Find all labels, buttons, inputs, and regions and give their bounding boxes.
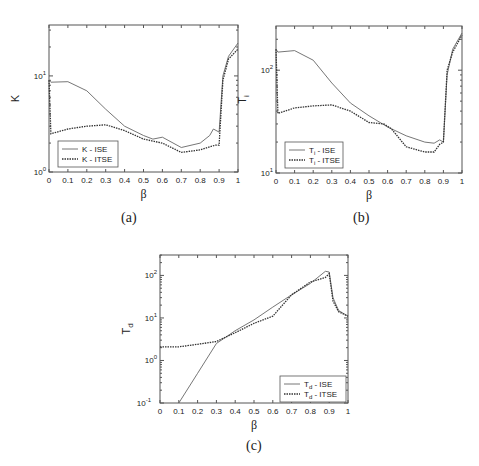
x-tick-label: 0.7 — [401, 177, 413, 186]
legend-label: Ti - ITSE — [309, 156, 340, 166]
x-tick-label: 0.3 — [100, 176, 112, 185]
x-tick-label: 0.8 — [419, 177, 431, 186]
legend: K - ISEK - ITSE — [58, 141, 118, 167]
x-tick-label: 0.8 — [195, 176, 207, 185]
x-tick-label: 1 — [346, 407, 351, 416]
y-tick-label: 101 — [261, 167, 274, 178]
x-tick-label: 0.1 — [173, 407, 185, 416]
x-tick-label: 1 — [236, 176, 241, 185]
x-tick-label: 1 — [460, 177, 465, 186]
x-tick-label: 0.3 — [326, 177, 338, 186]
x-tick-label: 0.9 — [438, 177, 450, 186]
x-tick-label: 0.1 — [62, 176, 74, 185]
y-tick-label: 100 — [145, 354, 158, 365]
x-tick-label: 0.6 — [382, 177, 394, 186]
x-tick-label: 0.2 — [192, 407, 204, 416]
caption-b: (b) — [353, 210, 369, 226]
series-line-1 — [49, 49, 238, 152]
y-axis-label: K — [9, 94, 21, 102]
subplot-a: 00.10.20.30.40.50.60.70.80.91100101βKK -… — [9, 25, 241, 201]
series-line-0 — [49, 43, 238, 148]
legend-label: Ti - ISE — [309, 146, 335, 156]
y-tick-label: 102 — [261, 64, 274, 75]
x-tick-label: 0.1 — [289, 177, 301, 186]
x-tick-label: 0.6 — [157, 176, 169, 185]
figure-canvas: 00.10.20.30.40.50.60.70.80.91100101βKK -… — [0, 0, 479, 466]
x-tick-label: 0 — [47, 176, 52, 185]
x-tick-label: 0.7 — [176, 176, 188, 185]
x-tick-label: 0.2 — [81, 176, 93, 185]
x-tick-label: 0.7 — [286, 407, 298, 416]
legend-label: K - ITSE — [82, 155, 112, 164]
series-line-0 — [276, 33, 462, 143]
x-tick-label: 0.9 — [214, 176, 226, 185]
subplot-c: 00.10.20.30.40.50.60.70.80.9110-11001011… — [120, 255, 351, 432]
y-tick-label: 101 — [145, 312, 158, 323]
caption-a: (a) — [121, 210, 137, 226]
x-tick-label: 0.5 — [248, 407, 260, 416]
legend-label: K - ISE — [82, 145, 107, 154]
x-tick-label: 0.4 — [119, 176, 131, 185]
y-tick-label: 100 — [34, 166, 47, 177]
x-tick-label: 0.4 — [345, 177, 357, 186]
x-tick-label: 0.5 — [138, 176, 150, 185]
x-tick-label: 0.5 — [363, 177, 375, 186]
series-line-1 — [160, 274, 348, 347]
legend: Ti - ISETi - ITSE — [285, 142, 343, 168]
series-line-1 — [276, 35, 462, 152]
x-axis-label: β — [366, 188, 372, 202]
x-tick-label: 0 — [274, 177, 279, 186]
y-tick-label: 101 — [34, 70, 47, 81]
legend: Td - ISETd - ITSE — [280, 376, 346, 402]
x-tick-label: 0.2 — [308, 177, 320, 186]
x-axis-label: β — [140, 187, 146, 201]
x-tick-label: 0 — [158, 407, 163, 416]
x-tick-label: 0.4 — [230, 407, 242, 416]
caption-c: (c) — [246, 438, 262, 454]
y-axis-label: Td — [120, 323, 135, 334]
x-tick-label: 0.8 — [305, 407, 317, 416]
legend-label: Td - ISE — [304, 380, 332, 390]
y-tick-label: 102 — [145, 269, 158, 280]
subplot-b: 00.10.20.30.40.50.60.70.80.91101102βTiTi… — [236, 26, 465, 202]
x-axis-label: β — [251, 418, 257, 432]
y-tick-label: 10-1 — [137, 397, 152, 408]
x-tick-label: 0.6 — [267, 407, 279, 416]
x-tick-label: 0.9 — [324, 407, 336, 416]
x-tick-label: 0.3 — [211, 407, 223, 416]
